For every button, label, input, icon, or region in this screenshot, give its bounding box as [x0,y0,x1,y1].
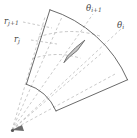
label-r-j-sub: j [18,37,20,44]
inner-arc [26,84,56,111]
sector-outline [26,10,127,111]
ray-theta-i-plus-1 [12,14,93,130]
leader-line-r-j [31,40,57,44]
ray-filler-1 [12,17,62,130]
label-theta-i: θi [117,21,124,30]
arc-r-j [32,55,80,59]
label-r-j-plus-1-sub: j+1 [8,19,19,26]
label-r-j: rj [14,35,20,44]
label-theta-i-plus-1-sub: i+1 [91,6,102,13]
leader-line-r-jplus1 [23,22,52,28]
outer-arc [50,10,128,80]
polar-cell-diagram: rj+1 rj θi+1 θi [0,0,137,138]
ray-filler-2 [12,52,103,130]
label-theta-i-plus-1: θi+1 [86,4,102,13]
right-radial-edge [56,80,128,111]
ray-filler-3 [12,73,117,130]
label-theta-i-sub: i [122,23,124,30]
label-r-j-plus-1: rj+1 [4,17,19,26]
dashed-radius-arcs [32,32,101,59]
left-radial-edge [26,10,50,84]
